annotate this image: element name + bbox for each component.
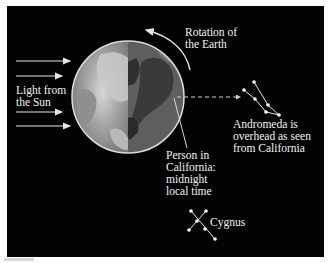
star-icon (242, 88, 246, 92)
andromeda-constellation (242, 80, 281, 117)
star-icon (253, 97, 257, 101)
person-label: Person in California: midnight local tim… (166, 149, 216, 197)
star-icon (203, 227, 207, 231)
star-icon (266, 103, 270, 107)
star-icon (195, 219, 199, 223)
star-icon (264, 110, 268, 114)
star-icon (277, 113, 281, 117)
rotation-label: Rotation of the Earth (185, 26, 237, 50)
star-icon (204, 209, 208, 213)
star-icon (213, 237, 217, 241)
figure-caption-mark (4, 258, 34, 261)
andromeda-label: Andromeda is overhead as seen from Calif… (233, 118, 311, 154)
cygnus-label: Cygnus (210, 216, 245, 228)
star-icon (187, 228, 191, 232)
star-icon (252, 80, 256, 84)
star-icon (189, 209, 193, 213)
sunlight-label: Light from the Sun (16, 84, 66, 108)
